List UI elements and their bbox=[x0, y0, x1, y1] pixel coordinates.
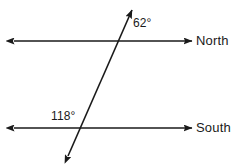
transversal-line bbox=[68, 10, 132, 156]
geometry-canvas bbox=[0, 0, 244, 164]
south-line-label: South bbox=[196, 121, 231, 134]
angle-label-118: 118° bbox=[51, 110, 75, 122]
angle-label-62: 62° bbox=[133, 17, 151, 29]
geometry-diagram: North South 62° 118° bbox=[0, 0, 244, 164]
north-line-label: North bbox=[196, 34, 229, 47]
